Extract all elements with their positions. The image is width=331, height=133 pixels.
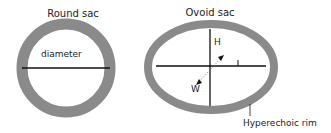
width-label: W xyxy=(191,84,200,94)
ovoid-sac-title: Ovoid sac xyxy=(185,7,234,18)
ovoid-sac: Ovoid sac H L W Hyperechoic rim xyxy=(148,7,317,128)
ovoid-sac-rim xyxy=(148,24,274,110)
height-label: H xyxy=(214,37,221,47)
width-arrow-up-icon xyxy=(218,55,224,61)
diameter-label: diameter xyxy=(41,49,82,59)
gestational-sac-diagram: Round sac diameter Ovoid sac H L W Hyper… xyxy=(0,0,331,133)
round-sac: Round sac diameter xyxy=(22,8,110,112)
round-sac-title: Round sac xyxy=(47,8,99,19)
rim-label: Hyperechoic rim xyxy=(243,118,317,128)
